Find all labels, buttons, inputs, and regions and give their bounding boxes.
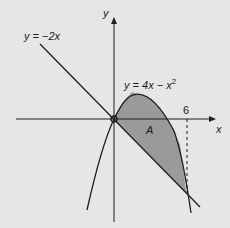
- line-equation-label: y = −2x: [23, 30, 61, 42]
- region-a-label: A: [145, 124, 153, 136]
- x-axis-label: x: [215, 123, 222, 135]
- graph: y x 6 y = −2x y = 4x − x2 A: [0, 0, 230, 228]
- shaded-region-a-exact: [114, 94, 186, 193]
- line-y-neg2x: [40, 44, 200, 207]
- x-axis-arrow-icon: [209, 116, 216, 122]
- y-axis-label: y: [102, 7, 110, 19]
- parabola-equation-label: y = 4x − x2: [123, 77, 177, 91]
- diagram-canvas: y x 6 y = −2x y = 4x − x2 A: [0, 0, 230, 228]
- tick-label-6: 6: [183, 104, 189, 116]
- y-axis-arrow-icon: [111, 17, 117, 24]
